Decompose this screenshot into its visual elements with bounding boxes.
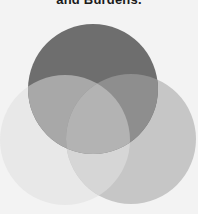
venn-diagram xyxy=(0,0,198,214)
